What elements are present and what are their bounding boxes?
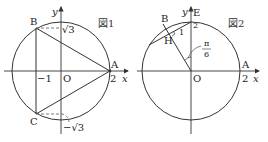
fig1-label-B: B: [30, 16, 37, 27]
fig1-tick-neg-sqrt3: −√3: [63, 122, 84, 133]
fig1-label-O: O: [63, 73, 71, 84]
fig1-tick-sqrt3: √3: [62, 24, 75, 35]
fig1-point-A-dot: [109, 70, 112, 73]
fig2-axis-x-label: x: [253, 73, 259, 84]
fig2-segment-label-1: 1: [179, 28, 184, 37]
fig2-label-A: A: [241, 59, 250, 70]
fig2-angle-leader: [188, 46, 201, 58]
fig2-segment-OB: [163, 24, 191, 71]
fig1-axis-x-label: x: [122, 73, 128, 84]
fig1-axis-y-label: y: [51, 6, 58, 17]
fig2-label-H: H: [164, 35, 173, 46]
fig2-axis-y-label: y: [181, 6, 188, 17]
figure-2: B E 2 H 1 π 6 O A 2 x y 図2: [137, 6, 259, 134]
fig2-title: 図2: [228, 18, 244, 29]
fig2-label-B: B: [161, 13, 168, 24]
fig2-angle-numerator: π: [204, 39, 209, 48]
diagram-canvas: B A C O 2 x y −1 √3 −√3 図1 B E 2 H 1 π 6…: [0, 0, 268, 142]
fig2-label-E: E: [193, 7, 200, 18]
fig2-label-O: O: [193, 73, 201, 84]
fig1-label-A: A: [110, 59, 119, 70]
fig1-tick-2: 2: [110, 73, 116, 84]
figure-1: B A C O 2 x y −1 √3 −√3 図1: [4, 6, 128, 134]
fig1-label-C: C: [30, 116, 38, 127]
fig2-tick-A-2: 2: [242, 73, 248, 84]
fig1-title: 図1: [98, 18, 114, 29]
fig2-tick-E-2: 2: [193, 21, 198, 30]
fig1-tick-neg1: −1: [37, 73, 52, 84]
fig2-angle-denominator: 6: [204, 50, 209, 59]
